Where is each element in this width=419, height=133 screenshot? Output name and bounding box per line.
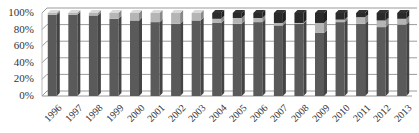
bar-segment bbox=[109, 19, 118, 96]
bar-segment bbox=[356, 17, 365, 24]
bar-segment bbox=[253, 13, 262, 18]
bar-segment bbox=[192, 13, 201, 20]
bar-segment bbox=[233, 24, 242, 96]
bar-segment bbox=[171, 13, 180, 24]
gridline-side bbox=[42, 58, 47, 63]
bar-segment-side bbox=[160, 19, 163, 96]
bar-segment bbox=[151, 13, 160, 22]
bar-segment-side bbox=[118, 16, 121, 96]
bar-segment bbox=[212, 13, 221, 19]
bar-segment bbox=[253, 22, 262, 96]
bar-segment bbox=[171, 24, 180, 96]
bar-segment-side bbox=[242, 21, 245, 96]
bar-segment-side bbox=[386, 24, 389, 96]
bar-segment bbox=[151, 22, 160, 96]
bar-segment bbox=[336, 20, 345, 22]
bar-segment bbox=[253, 18, 262, 22]
gridline-side bbox=[42, 25, 47, 30]
bar-segment bbox=[397, 25, 406, 96]
bar-segment-side bbox=[303, 21, 306, 96]
bar-segment bbox=[130, 20, 139, 96]
bar-segment bbox=[294, 24, 303, 96]
gridline-side bbox=[42, 8, 47, 13]
bar-segment-side bbox=[180, 21, 183, 96]
bar-segment-side bbox=[98, 12, 101, 96]
bar-segment bbox=[233, 13, 242, 18]
bar-segment bbox=[212, 23, 221, 96]
bar-segment bbox=[336, 22, 345, 96]
bar-segment bbox=[89, 13, 98, 15]
bar-segment bbox=[336, 13, 345, 20]
bar-segment-side bbox=[201, 17, 204, 96]
bar-segment bbox=[356, 24, 365, 96]
bar-segment bbox=[48, 13, 57, 15]
bar-segment bbox=[377, 13, 386, 20]
bar-segment-side bbox=[139, 17, 142, 96]
bar-segment bbox=[397, 13, 406, 19]
y-tick-label: 0% bbox=[0, 89, 34, 101]
bar-segment-side bbox=[324, 30, 327, 96]
bar-segment bbox=[294, 23, 303, 24]
bar-segment-side bbox=[262, 19, 265, 96]
bar-segment-side bbox=[406, 22, 409, 96]
bar-segment bbox=[109, 13, 118, 19]
gridline-side bbox=[42, 41, 47, 46]
bar-segment bbox=[397, 19, 406, 25]
bar-segment bbox=[274, 25, 283, 96]
y-tick-label: 20% bbox=[0, 72, 34, 84]
bar-segment bbox=[212, 19, 221, 23]
bar-segment bbox=[315, 33, 324, 96]
bar-segment-side bbox=[345, 19, 348, 96]
bar-segment bbox=[356, 13, 365, 17]
y-tick-label: 100% bbox=[0, 6, 34, 18]
bar-segment bbox=[233, 18, 242, 24]
bar-segment bbox=[192, 20, 201, 96]
bar-segment bbox=[274, 13, 283, 23]
bar-segment bbox=[48, 15, 57, 96]
bar-segment bbox=[315, 23, 324, 33]
bar-segment bbox=[377, 27, 386, 96]
gridline-side bbox=[42, 91, 47, 96]
bar-segment bbox=[130, 13, 139, 20]
bar-segment-side bbox=[365, 21, 368, 96]
bar-segment bbox=[274, 23, 283, 25]
bar-segment bbox=[68, 15, 77, 96]
y-tick-label: 80% bbox=[0, 23, 34, 35]
y-tick-label: 40% bbox=[0, 56, 34, 68]
bar-segment bbox=[377, 20, 386, 27]
bar-segment bbox=[89, 15, 98, 96]
bar-segment-side bbox=[57, 12, 60, 96]
y-tick-label: 60% bbox=[0, 39, 34, 51]
gridline-side bbox=[42, 74, 47, 79]
bar-segment bbox=[294, 13, 303, 23]
bar-segment bbox=[315, 13, 324, 23]
bar-segment-side bbox=[283, 22, 286, 96]
bar-segment-side bbox=[77, 12, 80, 96]
bar-segment bbox=[68, 13, 77, 15]
stacked-percent-bar-chart: 0%20%40%60%80%100%1996199719981999200020… bbox=[0, 0, 419, 133]
bar-segment-side bbox=[221, 20, 224, 96]
